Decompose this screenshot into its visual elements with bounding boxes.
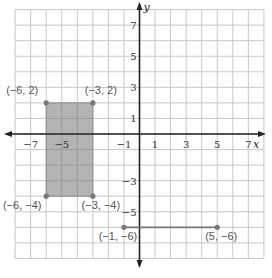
x-axis-arrow-right-icon [258,131,266,137]
x-axis-arrow-left-icon [4,131,12,137]
vertex-point [90,100,95,105]
endpoint-label: (5, −6) [205,230,237,242]
vertex-point [90,194,95,199]
y-axis-arrow-down-icon [137,260,143,268]
x-axis-label: x [253,138,260,151]
y-axis-label: y [143,1,151,14]
y-tick-label: 7 [130,20,136,31]
vertex-point [44,194,49,199]
y-tick-label: 1 [130,113,136,124]
vertex-label: (−3, 2) [85,84,117,96]
x-tick-label: 5 [214,139,220,150]
x-tick-label: −7 [23,139,38,150]
x-tick-label: 3 [183,139,189,150]
vertex-label: (−6, 2) [6,84,38,96]
y-axis-arrow-up-icon [137,2,143,10]
vertex-point [44,100,49,105]
coordinate-plane: −7−5−113577531−3−5 x y (−6, 2)(−3, 2)(−3… [0,0,272,278]
endpoint-label: (−1, −6) [99,230,138,242]
segment-endpoint [215,225,220,230]
segment-endpoint [121,225,126,230]
vertex-label: (−6, −4) [3,199,42,211]
y-tick-label: 5 [130,51,136,62]
x-tick-label: 7 [245,139,251,150]
x-tick-label: −1 [117,139,132,150]
x-tick-label: 1 [152,139,158,150]
y-tick-label: 3 [130,82,136,93]
y-tick-label: −5 [122,207,137,218]
vertex-label: (−3, −4) [82,199,121,211]
x-tick-label: −5 [54,139,69,150]
y-tick-label: −3 [122,176,137,187]
